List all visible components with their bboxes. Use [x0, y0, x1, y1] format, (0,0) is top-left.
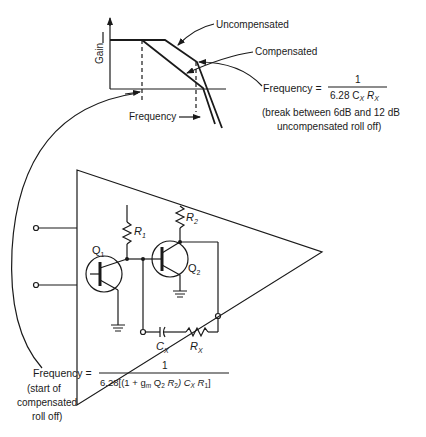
formula-denominator: 6.28 CX RX: [330, 90, 379, 102]
cx-label: CX: [156, 340, 169, 354]
start-frequency-formula: Frequency = 1 6.28[(1 + gm Q2 R2) CX R1]…: [17, 360, 229, 422]
input-terminal-noninverting[interactable]: [34, 283, 39, 288]
q1-emitter: [100, 280, 118, 290]
formula-prefix: Frequency =: [263, 82, 322, 94]
frequency-label: Frequency: [129, 111, 176, 122]
q2-collector: [162, 242, 180, 253]
uncompensated-label: Uncompensated: [216, 19, 289, 30]
q1-label: Q1: [92, 244, 105, 258]
q2-ground-icon: [173, 291, 187, 297]
q2-emitter: [162, 265, 180, 275]
resistor-r1: R1: [123, 205, 146, 259]
uncompensated-callout: [178, 24, 214, 45]
start-formula-numerator: 1: [162, 360, 168, 371]
break-frequency-formula: Frequency = 1 6.28 CX RX (break between …: [262, 74, 400, 132]
r2-label: R2: [186, 211, 198, 225]
feedback-terminal-left[interactable]: [141, 330, 146, 335]
compensation-diagram: Gain Frequency Uncompensated Compensated…: [0, 0, 426, 437]
q1-collector: [100, 259, 127, 268]
resistor-r2: R2: [176, 206, 198, 242]
rx-label: RX: [190, 340, 203, 354]
start-note-line-2: compensated: [17, 397, 77, 408]
gain-label: Gain: [94, 43, 105, 64]
break-note-line-2: uncompensated roll off): [277, 121, 381, 132]
break-frequency-callout: [199, 62, 262, 86]
compensated-label: Compensated: [255, 46, 317, 57]
formula-numerator: 1: [355, 74, 361, 85]
q1-ground-icon: [111, 325, 125, 331]
start-frequency-callout: [12, 93, 138, 368]
input-terminal-inverting[interactable]: [34, 226, 39, 231]
start-note-line-3: roll off): [32, 411, 62, 422]
transistor-q1: Q1: [86, 244, 127, 331]
r2-zigzag-icon: [176, 206, 184, 228]
break-note-line-1: (break between 6dB and 12 dB: [262, 107, 400, 118]
q2-label: Q2: [188, 262, 201, 276]
transistor-q2: Q2: [152, 241, 201, 297]
resistor-rx: RX: [186, 328, 218, 354]
r1-label: R1: [134, 225, 146, 239]
start-note-line-1: (start of: [27, 383, 61, 394]
start-formula-prefix: Frequency =: [33, 367, 92, 379]
bode-plot: Gain Frequency Uncompensated Compensated…: [94, 18, 400, 132]
r1-zigzag-icon: [123, 222, 131, 244]
start-formula-denominator: 6.28[(1 + gm Q2 R2) CX R1]: [100, 377, 211, 389]
